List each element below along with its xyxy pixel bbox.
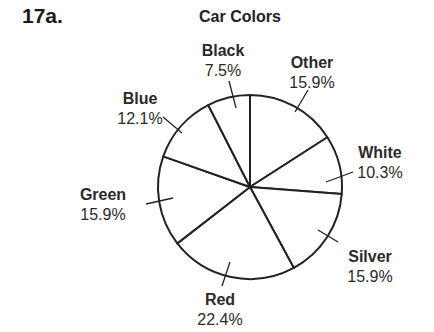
slice-name: Silver bbox=[348, 248, 392, 265]
slice-name: Other bbox=[291, 54, 334, 71]
slice-percent: 15.9% bbox=[347, 268, 392, 285]
slice-label-silver: Silver15.9% bbox=[318, 230, 393, 285]
slice-percent: 12.1% bbox=[117, 110, 162, 127]
slice-name: Black bbox=[202, 42, 245, 59]
leader-line bbox=[295, 90, 308, 112]
slice-name: Blue bbox=[123, 90, 158, 107]
slice-name: Red bbox=[205, 291, 235, 308]
slice-percent: 7.5% bbox=[205, 62, 241, 79]
slice-percent: 15.9% bbox=[80, 206, 125, 223]
slice-name: Green bbox=[80, 186, 126, 203]
pie-chart: Other15.9%White10.3%Silver15.9%Red22.4%G… bbox=[0, 0, 434, 332]
slice-label-blue: Blue12.1% bbox=[117, 90, 182, 133]
slice-percent: 10.3% bbox=[357, 164, 402, 181]
slice-label-other: Other15.9% bbox=[289, 54, 334, 112]
slice-percent: 15.9% bbox=[289, 74, 334, 91]
slice-percent: 22.4% bbox=[197, 311, 242, 328]
slice-name: White bbox=[358, 144, 402, 161]
leader-line bbox=[163, 117, 182, 133]
